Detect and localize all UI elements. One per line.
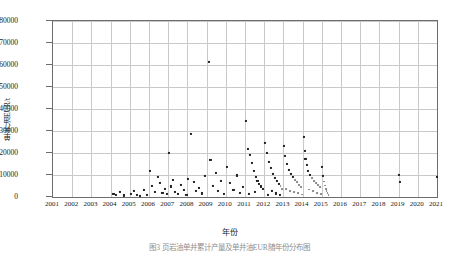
grid-line-vertical [245, 21, 246, 197]
scatter-point [149, 170, 151, 172]
scatter-point [177, 193, 179, 195]
scatter-point [288, 168, 290, 170]
y-tick-mark [46, 130, 52, 131]
grid-line-vertical [130, 21, 131, 197]
scatter-point [115, 194, 117, 196]
scatter-point [143, 189, 145, 191]
scatter-point [285, 188, 287, 190]
x-tick-label: 2016 [333, 200, 347, 208]
scatter-point [283, 145, 285, 147]
scatter-point [328, 194, 330, 196]
scatter-point [255, 176, 257, 178]
scatter-point [294, 179, 296, 181]
scatter-point [166, 193, 168, 195]
y-tick-mark [46, 86, 52, 87]
x-tick-label: 2019 [391, 200, 405, 208]
scatter-point [262, 188, 264, 190]
scatter-point [168, 152, 170, 154]
scatter-point [170, 185, 172, 187]
scatter-point [297, 193, 299, 195]
scatter-point [270, 167, 272, 169]
scatter-point [268, 161, 270, 163]
y-tick-label: 10000 [0, 170, 18, 179]
x-tick-label: 2003 [83, 200, 97, 208]
grid-line-vertical [226, 21, 227, 197]
scatter-point [217, 190, 219, 192]
scatter-point [112, 193, 114, 195]
scatter-point [133, 190, 135, 192]
x-tick-label: 2006 [141, 200, 155, 208]
x-tick-label: 2015 [314, 200, 328, 208]
x-tick-label: 2004 [103, 200, 117, 208]
scatter-point [300, 186, 302, 188]
scatter-point [223, 193, 225, 195]
scatter-point [172, 179, 174, 181]
scatter-point [304, 157, 306, 159]
grid-line-vertical [207, 21, 208, 197]
scatter-point [183, 189, 185, 191]
grid-line-vertical [283, 21, 284, 197]
scatter-point [249, 154, 251, 156]
scatter-point [303, 150, 305, 152]
x-tick-label: 2002 [64, 200, 78, 208]
figure-caption: 图3 页岩油单井累计产量及单井油EUR随年份分布图 [0, 241, 459, 252]
scatter-point [399, 181, 401, 183]
scatter-point [236, 174, 238, 176]
x-tick-label: 2014 [295, 200, 309, 208]
scatter-point [309, 174, 311, 176]
scatter-point [248, 193, 250, 195]
grid-line-vertical [379, 21, 380, 197]
x-tick-label: 2021 [429, 200, 443, 208]
scatter-point [146, 194, 148, 196]
scatter-point [254, 191, 256, 193]
x-tick-label: 2017 [352, 200, 366, 208]
y-tick-mark [46, 42, 52, 43]
y-tick-mark [46, 174, 52, 175]
scatter-point [204, 175, 206, 177]
grid-line-vertical [322, 21, 323, 197]
plot-area [52, 20, 438, 198]
x-tick-label: 2012 [256, 200, 270, 208]
grid-line-vertical [418, 21, 419, 197]
scatter-point [239, 192, 241, 194]
scatter-point [289, 190, 291, 192]
scatter-point [264, 142, 266, 144]
scatter-point [180, 184, 182, 186]
scatter-point [201, 192, 203, 194]
grid-line-vertical [72, 21, 73, 197]
x-axis-title: 年份 [0, 226, 459, 237]
grid-line-vertical [303, 21, 304, 197]
scatter-point [312, 190, 314, 192]
grid-line-vertical [341, 21, 342, 197]
scatter-point [220, 180, 222, 182]
grid-lines [53, 21, 437, 197]
scatter-point [319, 186, 321, 188]
scatter-point [198, 187, 200, 189]
scatter-point [321, 166, 323, 168]
scatter-point [286, 163, 288, 165]
y-tick-mark [46, 20, 52, 21]
scatter-point [284, 155, 286, 157]
scatter-point [324, 185, 326, 187]
scatter-point [212, 185, 214, 187]
scatter-point [311, 177, 313, 179]
x-tick-label: 2018 [371, 200, 385, 208]
scatter-point [209, 159, 211, 161]
grid-line-vertical [187, 21, 188, 197]
x-tick-label: 2009 [199, 200, 213, 208]
grid-line-vertical [91, 21, 92, 197]
scatter-point [154, 191, 156, 193]
x-tick-label: 2010 [218, 200, 232, 208]
scatter-point [316, 192, 318, 194]
y-tick-mark [46, 152, 52, 153]
y-tick-label: 70000 [0, 38, 18, 47]
scatter-point [307, 170, 309, 172]
scatter-point [207, 61, 209, 63]
scatter-point [323, 181, 325, 183]
y-tick-label: 60000 [0, 60, 18, 69]
scatter-point [229, 182, 231, 184]
scatter-point [281, 188, 283, 190]
scatter-point [215, 172, 217, 174]
x-tick-label: 2020 [410, 200, 424, 208]
scatter-point [290, 173, 292, 175]
